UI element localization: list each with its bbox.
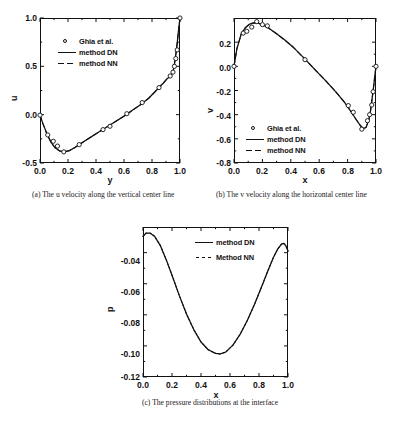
legend-item-method-nn: method NN — [246, 145, 306, 156]
dashed-line-icon — [58, 59, 76, 68]
panel-c-xtick-1: 0.2 — [160, 380, 184, 390]
panel-b-ytick-4: -0.6 — [198, 135, 231, 145]
panel-b-ytick-1: 0.0 — [200, 63, 231, 73]
panel-c-ytick-3: -0.10 — [105, 349, 140, 359]
panel-b-xtick-5: 1.0 — [364, 166, 388, 176]
legend-label: method DN — [267, 135, 306, 144]
panel-c-xtick-4: 0.8 — [247, 380, 271, 390]
panel-c: -0.04 -0.06 -0.08 -0.10 -0.12 0.0 0.2 0.… — [95, 215, 325, 424]
panel-c-ytick-0: -0.04 — [105, 256, 140, 266]
panel-b-legend: Ghia et al. method DN method NN — [246, 123, 306, 156]
panel-b-ytick-0: 0.2 — [200, 39, 231, 49]
panel-a-y-axis-label: u — [9, 81, 19, 101]
legend-label: Ghia et al. — [79, 37, 113, 46]
legend-label: Ghia et al. — [267, 124, 301, 133]
panel-c-xtick-0: 0.0 — [131, 380, 155, 390]
panel-a-xtick-5: 1.0 — [168, 166, 192, 176]
panel-a-x-axis-label: y — [98, 175, 122, 185]
legend-label: method NN — [79, 59, 118, 68]
dotted-line-icon — [195, 253, 213, 262]
legend-label: Method NN — [216, 253, 254, 262]
circle-marker-icon — [246, 124, 264, 133]
circle-marker-icon — [58, 37, 76, 46]
legend-item-method-nn: method NN — [58, 58, 118, 69]
panel-a-legend: Ghia et al. method DN method NN — [58, 36, 118, 69]
panel-a-ytick-1: 0.5 — [6, 61, 37, 71]
panel-b-xtick-4: 0.8 — [336, 166, 360, 176]
panel-c-ytick-2: -0.08 — [105, 318, 140, 328]
solid-line-icon — [246, 135, 264, 144]
panel-a-ytick-2: 0.0 — [6, 110, 37, 120]
legend-item-method-dn: method DN — [246, 134, 306, 145]
panel-a: 1.0 0.5 0.0 -0.5 0.0 0.2 0.4 0.6 0.8 1.0… — [0, 0, 198, 215]
legend-label: method DN — [79, 48, 118, 57]
panel-b-x-axis-label: x — [293, 175, 317, 185]
panel-b-caption: (b) The v velocity along the horizontal … — [216, 190, 382, 200]
panel-a-xtick-4: 0.8 — [140, 166, 164, 176]
solid-line-icon — [195, 238, 213, 247]
panel-c-xtick-2: 0.4 — [189, 380, 213, 390]
panel-c-xtick-5: 1.0 — [276, 380, 300, 390]
legend-item-ghia: Ghia et al. — [246, 123, 306, 134]
panel-c-legend: method DN Method NN — [195, 235, 255, 265]
legend-item-method-dn: method DN — [58, 47, 118, 58]
legend-label: method DN — [216, 238, 255, 247]
panel-c-xtick-3: 0.6 — [218, 380, 242, 390]
panel-b: 0.2 0.0 -0.2 -0.4 -0.6 -0.8 0.0 0.2 0.4 … — [198, 0, 398, 215]
panel-b-xtick-1: 0.2 — [250, 166, 274, 176]
panel-c-caption: (c) The pressure distributions at the in… — [95, 398, 325, 408]
panel-a-caption: (a) The u velocity along the vertical ce… — [32, 190, 192, 200]
legend-item-method-nn: Method NN — [195, 250, 255, 265]
legend-label: method NN — [267, 146, 306, 155]
figure-root: 1.0 0.5 0.0 -0.5 0.0 0.2 0.4 0.6 0.8 1.0… — [0, 0, 398, 424]
panel-a-xtick-1: 0.2 — [56, 166, 80, 176]
panel-a-xtick-0: 0.0 — [28, 166, 52, 176]
solid-line-icon — [58, 48, 76, 57]
panel-c-y-axis-label: p — [105, 292, 115, 312]
legend-item-method-dn: method DN — [195, 235, 255, 250]
panel-a-ytick-0: 1.0 — [6, 13, 37, 23]
dashed-line-icon — [246, 146, 264, 155]
panel-b-xtick-0: 0.0 — [222, 166, 246, 176]
panel-b-y-axis-label: v — [205, 93, 215, 113]
legend-item-ghia: Ghia et al. — [58, 36, 118, 47]
